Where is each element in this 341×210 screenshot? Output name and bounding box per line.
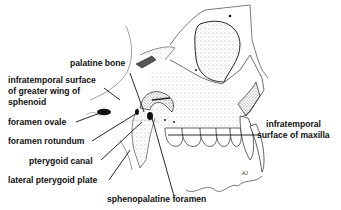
label-infratemporal-maxilla-line1: infratemporal <box>266 119 321 130</box>
label-infratemporal-sphenoid-line2: of greater wing of <box>8 86 80 97</box>
label-foramen-rotundum: foramen rotundum <box>8 136 84 147</box>
artist-signature: AJ <box>242 170 248 176</box>
label-sphenopalatine-foramen: sphenopalatine foramen <box>107 194 206 205</box>
label-pterygoid-canal: pterygoid canal <box>29 156 93 167</box>
label-foramen-ovale: foramen ovale <box>8 117 66 128</box>
skull-diagram: AJ palatine bone infratemporal surface o… <box>0 0 341 210</box>
label-infratemporal-maxilla-line2: surface of maxilla <box>257 130 330 141</box>
label-infratemporal-sphenoid-line1: infratemporal surface <box>8 75 96 86</box>
label-infratemporal-sphenoid-line3: sphenoid <box>8 97 46 108</box>
label-palatine-bone: palatine bone <box>70 58 125 69</box>
label-lateral-pterygoid-plate: lateral pterygoid plate <box>8 175 97 186</box>
